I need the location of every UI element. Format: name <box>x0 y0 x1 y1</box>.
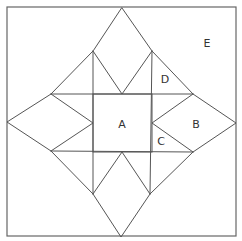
label-c: C <box>157 135 165 148</box>
quilt-block-diagram: A B C D E <box>0 0 242 241</box>
label-b: B <box>192 118 200 131</box>
label-a: A <box>118 118 126 131</box>
label-d: D <box>161 73 169 86</box>
label-e: E <box>204 37 211 50</box>
